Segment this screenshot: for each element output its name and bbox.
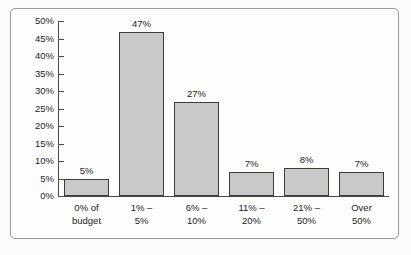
- x-axis-category-label: Over50%: [330, 202, 393, 227]
- y-axis-tick-label: 50%: [22, 16, 54, 26]
- y-axis-tick-label-text: 30%: [24, 86, 54, 96]
- x-axis-category-label-line: 21% –: [275, 202, 338, 215]
- y-axis-tick-label: 5%: [22, 174, 54, 184]
- y-axis-tick-label-text: 45%: [24, 34, 54, 44]
- x-axis-category-label-line: 5%: [110, 215, 173, 228]
- y-axis-tick-label: 0%: [22, 191, 54, 201]
- y-axis-tick-label: 45%: [22, 34, 54, 44]
- y-axis-tick-label-text: 50%: [24, 16, 54, 26]
- y-axis-tick-label-text: 5%: [24, 174, 54, 184]
- x-axis-category-label-line: 6% –: [165, 202, 228, 215]
- y-axis-tick: [59, 144, 64, 145]
- bar: [284, 168, 329, 196]
- x-axis-line: [58, 196, 389, 197]
- x-axis-category-label: 1% –5%: [110, 202, 173, 227]
- x-axis-category-label: 6% –10%: [165, 202, 228, 227]
- y-axis-tick-label: 35%: [22, 69, 54, 79]
- y-axis-tick-label-text: 15%: [24, 139, 54, 149]
- x-axis-category-label-line: 50%: [330, 215, 393, 228]
- x-axis-category-label: 0% ofbudget: [55, 202, 118, 227]
- x-axis-category-label-line: 10%: [165, 215, 228, 228]
- bar-value-label: 7%: [331, 158, 392, 169]
- y-axis-tick: [59, 161, 64, 162]
- bar: [339, 172, 384, 197]
- bar-value-label: 7%: [221, 158, 282, 169]
- y-axis-tick-label: 10%: [22, 156, 54, 166]
- bar: [174, 102, 219, 197]
- y-axis-tick: [59, 21, 64, 22]
- bar: [229, 172, 274, 197]
- y-axis-tick: [59, 39, 64, 40]
- y-axis-tick-label: 40%: [22, 51, 54, 61]
- y-axis-tick-label-text: 40%: [24, 51, 54, 61]
- x-axis-category-label-line: budget: [55, 215, 118, 228]
- x-axis-category-label-line: Over: [330, 202, 393, 215]
- y-axis-tick: [59, 56, 64, 57]
- y-axis-tick: [59, 126, 64, 127]
- bar: [119, 32, 164, 197]
- y-axis-tick: [59, 109, 64, 110]
- x-axis-category-label-line: 50%: [275, 215, 338, 228]
- y-axis-tick-label-text: 0%: [24, 191, 54, 201]
- y-axis-tick-label-text: 35%: [24, 69, 54, 79]
- bar-chart-figure: 0%5%10%15%20%25%30%35%40%45%50% 5%47%27%…: [0, 0, 411, 255]
- y-axis-tick-label-text: 20%: [24, 121, 54, 131]
- x-axis-category-label-line: 0% of: [55, 202, 118, 215]
- y-axis-tick: [59, 91, 64, 92]
- x-axis-category-label-line: 11% –: [220, 202, 283, 215]
- y-axis-tick-label: 15%: [22, 139, 54, 149]
- x-axis-category-label-line: 20%: [220, 215, 283, 228]
- bar-value-label: 8%: [276, 154, 337, 165]
- x-axis-category-label: 21% –50%: [275, 202, 338, 227]
- x-axis-category-label-line: 1% –: [110, 202, 173, 215]
- y-axis-tick: [59, 196, 64, 197]
- y-axis-tick-label-text: 10%: [24, 156, 54, 166]
- bar-value-label: 5%: [56, 165, 117, 176]
- y-axis-tick-label: 30%: [22, 86, 54, 96]
- x-axis-category-label: 11% –20%: [220, 202, 283, 227]
- y-axis-tick-label-text: 25%: [24, 104, 54, 114]
- plot-area: 0%5%10%15%20%25%30%35%40%45%50% 5%47%27%…: [0, 0, 411, 255]
- y-axis-tick: [59, 74, 64, 75]
- bar: [64, 179, 109, 197]
- bar-value-label: 47%: [111, 18, 172, 29]
- y-axis-tick-label: 25%: [22, 104, 54, 114]
- y-axis-tick-label: 20%: [22, 121, 54, 131]
- bar-value-label: 27%: [166, 88, 227, 99]
